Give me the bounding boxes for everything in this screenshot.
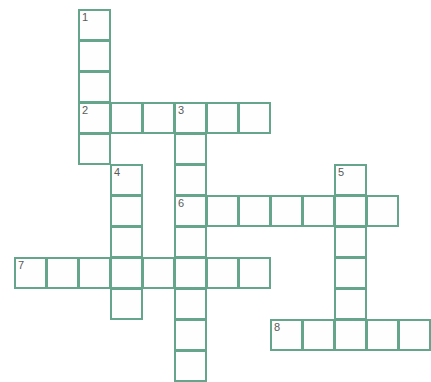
cell-number: 7 [18,259,24,271]
crossword-cell[interactable] [174,164,207,196]
crossword-cell-numbered[interactable]: 8 [270,319,303,351]
crossword-cell[interactable] [334,257,367,289]
cell-number: 3 [178,104,184,116]
cell-number: 1 [82,11,88,23]
crossword-cell-numbered[interactable]: 1 [78,9,111,41]
crossword-cell[interactable] [366,195,399,227]
crossword-cell[interactable] [334,195,367,227]
crossword-cell[interactable] [366,319,399,351]
crossword-cell[interactable] [302,195,335,227]
crossword-cell-numbered[interactable]: 7 [14,257,47,289]
crossword-cell[interactable] [302,319,335,351]
crossword-cell[interactable] [238,102,271,134]
crossword-cell[interactable] [142,257,175,289]
crossword-cell[interactable] [334,319,367,351]
crossword-cell[interactable] [78,257,111,289]
crossword-cell[interactable] [174,350,207,382]
crossword-cell[interactable] [110,195,143,227]
crossword-cell[interactable] [398,319,431,351]
crossword-cell[interactable] [238,195,271,227]
crossword-cell[interactable] [270,195,303,227]
crossword-cell[interactable] [334,288,367,320]
cell-number: 4 [114,166,120,178]
crossword-cell[interactable] [206,195,239,227]
crossword-cell[interactable] [174,226,207,258]
crossword-cell-numbered[interactable]: 2 [78,102,111,134]
crossword-cell[interactable] [78,133,111,165]
crossword-cell[interactable] [110,102,143,134]
cell-number: 2 [82,104,88,116]
cell-number: 6 [178,197,184,209]
crossword-cell[interactable] [174,319,207,351]
crossword-cell[interactable] [238,257,271,289]
crossword-cell[interactable] [174,257,207,289]
crossword-cell[interactable] [206,257,239,289]
crossword-cell[interactable] [174,133,207,165]
crossword-cell-numbered[interactable]: 4 [110,164,143,196]
crossword-cell[interactable] [78,71,111,103]
crossword-cell[interactable] [110,257,143,289]
crossword-cell[interactable] [110,288,143,320]
crossword-cell[interactable] [110,226,143,258]
crossword-cell-numbered[interactable]: 6 [174,195,207,227]
crossword-cell-numbered[interactable]: 5 [334,164,367,196]
crossword-cell[interactable] [174,288,207,320]
crossword-cell[interactable] [46,257,79,289]
cell-number: 8 [274,321,280,333]
crossword-cell-numbered[interactable]: 3 [174,102,207,134]
crossword-cell[interactable] [334,226,367,258]
crossword-cell[interactable] [142,102,175,134]
crossword-cell[interactable] [206,102,239,134]
cell-number: 5 [338,166,344,178]
crossword-cell[interactable] [78,40,111,72]
